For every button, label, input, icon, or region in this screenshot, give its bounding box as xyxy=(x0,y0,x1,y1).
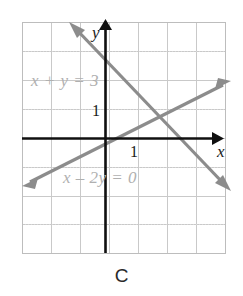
equation-label-line1-text: x + y = 3 xyxy=(31,71,99,90)
graph-figure: x + y = 3 x – 2y = 0 y x 1 1 C xyxy=(0,0,243,296)
y-axis-arrowhead xyxy=(99,19,112,30)
x-axis-label: x xyxy=(217,143,225,160)
equation-label-line2: x – 2y = 0 xyxy=(63,169,137,186)
x-axis-tick-label-one: 1 xyxy=(130,144,138,160)
figure-caption: C xyxy=(0,266,243,285)
coordinate-plane-graphic xyxy=(0,0,243,296)
y-axis-label: y xyxy=(92,24,100,41)
arrowhead-lower-left xyxy=(22,178,38,189)
arrowhead-upper-right xyxy=(215,78,231,89)
equation-label-line1: x + y = 3 xyxy=(31,72,99,89)
equation-label-line2-text: x – 2y = 0 xyxy=(63,168,137,187)
y-axis-tick-label-one: 1 xyxy=(92,103,100,119)
